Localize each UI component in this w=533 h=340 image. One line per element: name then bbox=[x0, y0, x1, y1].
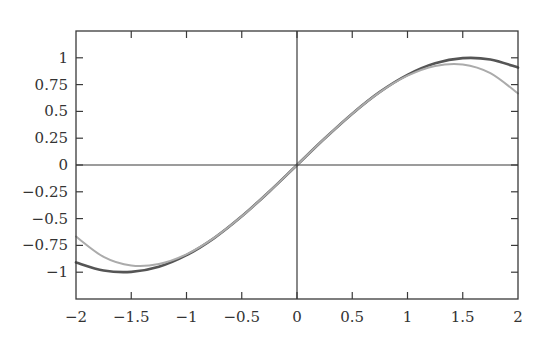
x-tick-label: 1 bbox=[403, 308, 413, 326]
x-tick-label: −2 bbox=[65, 308, 87, 326]
y-tick-label: 0.75 bbox=[35, 76, 68, 94]
x-tick-label: −1.5 bbox=[113, 308, 149, 326]
x-tick-label: 2 bbox=[513, 308, 523, 326]
y-tick-label: −0.75 bbox=[22, 236, 68, 254]
x-tick-label: 0.5 bbox=[340, 308, 364, 326]
x-tick-label: −1 bbox=[175, 308, 197, 326]
y-tick-label: 1 bbox=[58, 49, 68, 67]
x-tick-label: 0 bbox=[292, 308, 302, 326]
y-tick-label: 0.25 bbox=[35, 129, 68, 147]
y-tick-label: −0.5 bbox=[32, 210, 68, 228]
x-tick-labels: −2−1.5−1−0.500.511.52 bbox=[65, 308, 523, 326]
y-tick-label: 0.5 bbox=[44, 102, 68, 120]
y-tick-label: −0.25 bbox=[22, 183, 68, 201]
y-tick-label: 0 bbox=[58, 156, 68, 174]
x-tick-label: −0.5 bbox=[224, 308, 260, 326]
line-chart: −2−1.5−1−0.500.511.52 −1−0.75−0.5−0.2500… bbox=[0, 0, 533, 340]
zero-axes bbox=[76, 31, 518, 299]
x-tick-label: 1.5 bbox=[451, 308, 475, 326]
y-tick-label: −1 bbox=[46, 263, 68, 281]
y-tick-labels: −1−0.75−0.5−0.2500.250.50.751 bbox=[22, 49, 68, 281]
